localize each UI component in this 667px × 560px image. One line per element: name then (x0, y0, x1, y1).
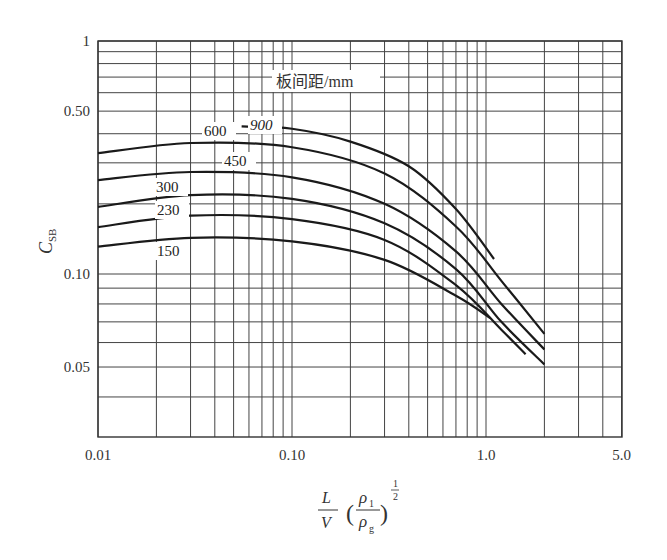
svg-text:g: g (369, 523, 374, 534)
svg-text:(: ( (346, 500, 354, 526)
y-axis-title: C SB (36, 229, 58, 254)
svg-text:ρ: ρ (358, 512, 367, 531)
x-axis-title: L V ( ρ 1 ρ g ) 1 2 (318, 478, 399, 534)
y-tick-label: 0.05 (64, 359, 90, 375)
curve-label-600: 600 (204, 123, 227, 139)
x-tick-label: 1.0 (477, 447, 496, 463)
curve-label-900: 900 (250, 117, 273, 133)
curve-230 (98, 215, 526, 354)
x-tick-label: 0.01 (85, 447, 111, 463)
curve-label-150: 150 (157, 243, 180, 259)
svg-text:L: L (321, 489, 331, 506)
x-tick-label: 0.10 (279, 447, 305, 463)
svg-text:2: 2 (393, 491, 398, 502)
x-tick-label: 5.0 (612, 447, 631, 463)
legend-title: 板间距/mm (276, 73, 354, 90)
svg-text:SB: SB (46, 229, 58, 242)
y-tick-label: 0.50 (64, 103, 90, 119)
y-tick-label: 1 (83, 33, 91, 49)
curve-label-450: 450 (224, 153, 247, 169)
svg-text:1: 1 (369, 498, 374, 509)
svg-text:1: 1 (393, 478, 398, 489)
chart-canvas: 900600450300230150 0.010.101.05.010.500.… (0, 0, 667, 560)
curve-label-230: 230 (157, 202, 180, 218)
tick-labels: 0.010.101.05.010.500.100.05 (64, 33, 631, 463)
svg-text:): ) (380, 500, 388, 526)
y-tick-label: 0.10 (64, 266, 90, 282)
svg-text:V: V (321, 514, 333, 531)
curve-label-300: 300 (156, 179, 179, 195)
svg-text:ρ: ρ (358, 488, 367, 507)
